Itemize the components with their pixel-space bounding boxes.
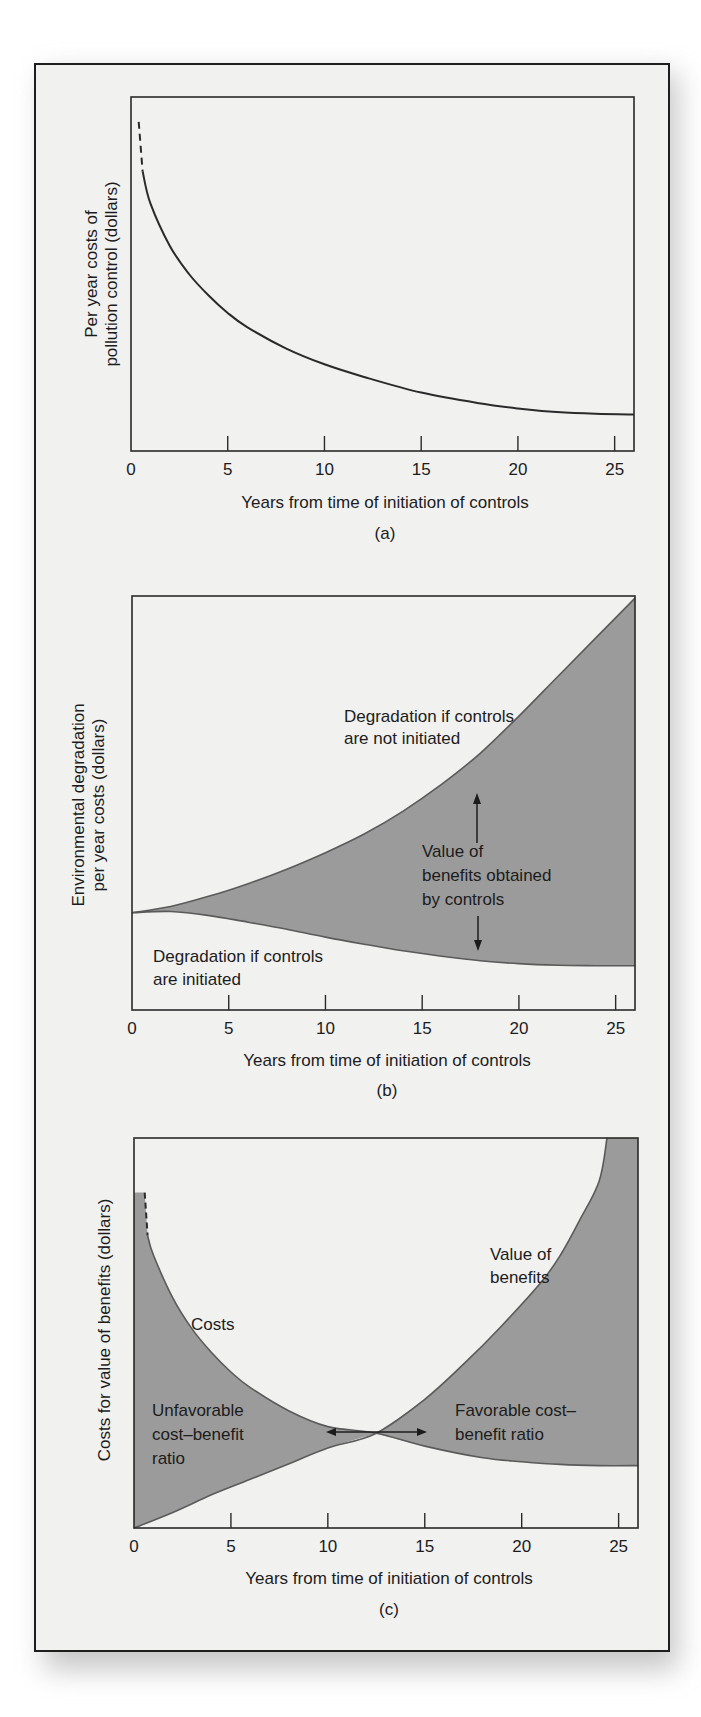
x-axis-ticks-a: 0510152025 <box>126 436 624 479</box>
x-tick-label: 5 <box>223 460 232 479</box>
annotation-costs: Costs <box>191 1315 234 1334</box>
y-axis-label-a-line1: Per year costs of <box>82 210 101 338</box>
x-tick-label: 0 <box>126 460 135 479</box>
panel-c-cost-benefit-chart: 0510152025 Costs Value of benefits Unfav… <box>95 1138 638 1619</box>
x-tick-label: 25 <box>605 460 624 479</box>
x-tick-label: 25 <box>606 1019 625 1038</box>
x-tick-label: 20 <box>508 460 527 479</box>
cost-curve-dashed-start <box>139 122 143 172</box>
plot-area-a <box>131 97 634 451</box>
figure-canvas: 0510152025 Per year costs of pollution c… <box>0 0 701 1717</box>
benefit-area-fill <box>132 598 635 966</box>
x-tick-label: 20 <box>512 1537 531 1556</box>
x-axis-label-a: Years from time of initiation of control… <box>241 493 529 512</box>
x-tick-label: 20 <box>509 1019 528 1038</box>
y-axis-label-a-line2: pollution control (dollars) <box>102 181 121 366</box>
x-axis-ticks-b: 0510152025 <box>127 995 625 1038</box>
x-tick-label: 5 <box>226 1537 235 1556</box>
x-axis-label-c: Years from time of initiation of control… <box>245 1569 533 1588</box>
annotation-initiated: Degradation if controls are initiated <box>153 947 328 989</box>
x-tick-label: 15 <box>412 460 431 479</box>
x-tick-label: 10 <box>315 460 334 479</box>
panel-caption-b: (b) <box>377 1081 398 1100</box>
x-tick-label: 0 <box>129 1537 138 1556</box>
x-axis-label-b: Years from time of initiation of control… <box>243 1051 531 1070</box>
y-axis-label-b-line1: Environmental degradation <box>69 703 88 906</box>
annotation-value-of-benefits-c: Value of benefits <box>490 1245 556 1287</box>
x-tick-label: 15 <box>415 1537 434 1556</box>
cost-curve <box>143 171 634 414</box>
y-axis-label-b-line2: per year costs (dollars) <box>89 719 108 892</box>
x-tick-label: 25 <box>609 1537 628 1556</box>
x-axis-ticks-c: 0510152025 <box>129 1513 628 1556</box>
x-tick-label: 15 <box>413 1019 432 1038</box>
panel-caption-a: (a) <box>375 524 396 543</box>
panel-a-cost-chart: 0510152025 Per year costs of pollution c… <box>82 97 634 543</box>
panel-b-degradation-chart: 0510152025 Degradation if controls are n… <box>69 596 635 1100</box>
x-tick-label: 0 <box>127 1019 136 1038</box>
x-tick-label: 5 <box>224 1019 233 1038</box>
panel-caption-c: (c) <box>379 1600 399 1619</box>
y-axis-label-c: Costs for value of benefits (dollars) <box>95 1199 114 1462</box>
x-tick-label: 10 <box>318 1537 337 1556</box>
x-tick-label: 10 <box>316 1019 335 1038</box>
